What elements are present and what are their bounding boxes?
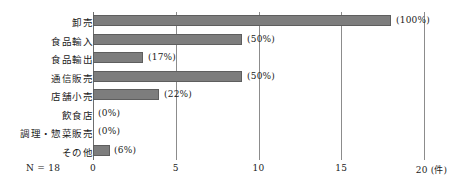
category-label-5: 飲食店	[62, 110, 93, 121]
value-label-3: (50%)	[247, 71, 275, 82]
xtick-label-1: 5	[173, 163, 179, 173]
bar-7	[93, 145, 110, 156]
xtick-label-3: 15	[335, 163, 347, 173]
xtick-label-2: 10	[253, 163, 265, 173]
category-label-2: 食品輸出	[51, 54, 93, 65]
category-label-6: 調理・惣菜販売	[20, 128, 93, 139]
gridline-15	[341, 12, 342, 160]
sample-size-note: N = 18	[26, 163, 60, 173]
value-label-4: (22%)	[164, 89, 192, 100]
bar-4	[93, 89, 159, 100]
category-label-0: 卸売	[72, 17, 93, 28]
value-label-1: (50%)	[247, 34, 275, 45]
category-label-4: 店舗小売	[51, 91, 93, 102]
value-label-6: (0%)	[98, 126, 120, 137]
xtick-label-4: 20 (件)	[416, 163, 448, 176]
gridline-20	[424, 12, 425, 160]
category-label-7: その他	[62, 147, 93, 158]
plot-area: (100%) (50%) (17%) (50%) (22%) (0%) (0%)…	[93, 12, 424, 160]
category-label-1: 食品輸入	[51, 36, 93, 47]
value-label-7: (6%)	[114, 145, 136, 156]
value-label-0: (100%)	[396, 15, 430, 26]
category-label-3: 通信販売	[51, 73, 93, 84]
bar-1	[93, 34, 242, 45]
bar-2	[93, 52, 143, 63]
value-label-5: (0%)	[98, 108, 120, 119]
value-label-2: (17%)	[148, 52, 176, 63]
bar-3	[93, 71, 242, 82]
xtick-label-0: 0	[90, 163, 96, 173]
bar-0	[93, 15, 391, 26]
bar-chart: 卸売 食品輸入 食品輸出 通信販売 店舗小売 飲食店 調理・惣菜販売 その他 (…	[0, 0, 467, 194]
